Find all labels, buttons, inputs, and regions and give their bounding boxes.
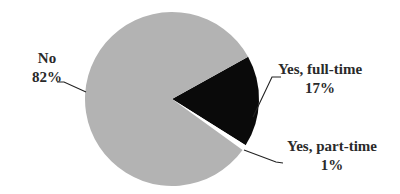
label-part-time-value: 1% bbox=[276, 156, 388, 175]
label-no-name: No bbox=[22, 49, 72, 68]
label-full-time-name: Yes, full-time bbox=[268, 60, 372, 79]
label-part-time: Yes, part-time 1% bbox=[276, 137, 388, 175]
pie-slices bbox=[85, 12, 259, 186]
label-no: No 82% bbox=[22, 49, 72, 87]
label-no-value: 82% bbox=[22, 68, 72, 87]
label-part-time-name: Yes, part-time bbox=[276, 137, 388, 156]
label-full-time-value: 17% bbox=[268, 79, 372, 98]
label-full-time: Yes, full-time 17% bbox=[268, 60, 372, 98]
